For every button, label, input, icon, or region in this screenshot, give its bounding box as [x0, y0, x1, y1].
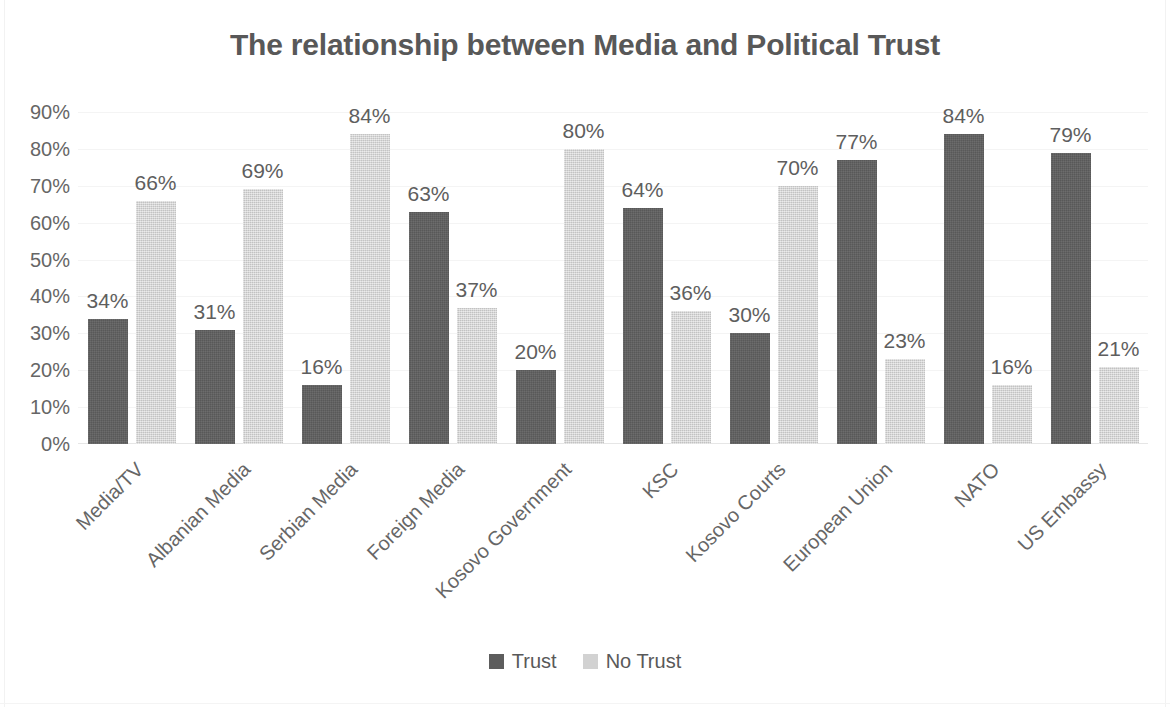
bar-wrapper: 30%: [730, 112, 770, 444]
bar-wrapper: 34%: [88, 112, 128, 444]
bar-wrapper: 84%: [350, 112, 390, 444]
x-axis-slot: European Union: [827, 444, 934, 604]
bar-group: 64%36%: [613, 112, 720, 444]
bar-wrapper: 63%: [409, 112, 449, 444]
y-axis: 90%80%70%60%50%40%30%20%10%0%: [10, 112, 70, 444]
bar-value-label: 69%: [241, 159, 283, 183]
bar-pair: 34%66%: [78, 112, 185, 444]
bar-no-trust[interactable]: [1099, 367, 1139, 444]
bar-no-trust[interactable]: [885, 359, 925, 444]
bar-value-label: 34%: [86, 289, 128, 313]
bar-trust[interactable]: [944, 134, 984, 444]
bar-value-label: 79%: [1049, 123, 1091, 147]
bar-value-label: 16%: [300, 355, 342, 379]
legend-item[interactable]: No Trust: [583, 650, 682, 673]
bar-trust[interactable]: [1051, 153, 1091, 444]
bar-no-trust[interactable]: [350, 134, 390, 444]
x-axis-slot: NATO: [934, 444, 1041, 604]
x-axis-category-label: NATO: [950, 458, 1004, 512]
bar-wrapper: 20%: [516, 112, 556, 444]
bar-group: 79%21%: [1041, 112, 1148, 444]
bar-no-trust[interactable]: [992, 385, 1032, 444]
x-axis-category-label: KSC: [637, 458, 682, 503]
bar-pair: 63%37%: [399, 112, 506, 444]
bar-no-trust[interactable]: [136, 201, 176, 444]
bar-value-label: 64%: [621, 178, 663, 202]
bar-trust[interactable]: [302, 385, 342, 444]
legend-item[interactable]: Trust: [489, 650, 557, 673]
bar-wrapper: 84%: [944, 112, 984, 444]
bar-wrapper: 79%: [1051, 112, 1091, 444]
bar-value-label: 20%: [514, 340, 556, 364]
bar-pair: 84%16%: [934, 112, 1041, 444]
bar-no-trust[interactable]: [671, 311, 711, 444]
bar-value-label: 84%: [942, 104, 984, 128]
bar-pair: 31%69%: [185, 112, 292, 444]
y-axis-tick-label: 20%: [30, 359, 70, 382]
bar-value-label: 84%: [348, 104, 390, 128]
frame-edge-left: [4, 0, 5, 707]
bar-group: 31%69%: [185, 112, 292, 444]
bar-wrapper: 80%: [564, 112, 604, 444]
bar-wrapper: 16%: [992, 112, 1032, 444]
bar-pair: 77%23%: [827, 112, 934, 444]
chart-container: The relationship between Media and Polit…: [0, 0, 1170, 707]
x-axis-slot: Serbian Media: [292, 444, 399, 604]
plot-area: 34%66%31%69%16%84%63%37%20%80%64%36%30%7…: [78, 112, 1148, 444]
bar-value-label: 30%: [728, 303, 770, 327]
bar-wrapper: 69%: [243, 112, 283, 444]
x-axis-slot: KSC: [613, 444, 720, 604]
bar-trust[interactable]: [88, 319, 128, 444]
y-axis-tick-label: 10%: [30, 396, 70, 419]
bar-wrapper: 70%: [778, 112, 818, 444]
bar-no-trust[interactable]: [457, 308, 497, 444]
bar-trust[interactable]: [195, 330, 235, 444]
bar-value-label: 80%: [562, 119, 604, 143]
bar-value-label: 66%: [134, 171, 176, 195]
bar-group: 77%23%: [827, 112, 934, 444]
y-axis-tick-label: 30%: [30, 322, 70, 345]
bar-value-label: 77%: [835, 130, 877, 154]
bar-pair: 79%21%: [1041, 112, 1148, 444]
y-axis-tick-label: 90%: [30, 101, 70, 124]
y-axis-tick-label: 80%: [30, 137, 70, 160]
bar-trust[interactable]: [837, 160, 877, 444]
bar-groups: 34%66%31%69%16%84%63%37%20%80%64%36%30%7…: [78, 112, 1148, 444]
y-axis-tick-label: 40%: [30, 285, 70, 308]
bar-trust[interactable]: [623, 208, 663, 444]
bar-value-label: 37%: [455, 278, 497, 302]
bar-group: 20%80%: [506, 112, 613, 444]
bar-trust[interactable]: [409, 212, 449, 444]
y-axis-tick-label: 60%: [30, 211, 70, 234]
bar-pair: 20%80%: [506, 112, 613, 444]
bar-value-label: 16%: [990, 355, 1032, 379]
x-axis-slot: Kosovo Courts: [720, 444, 827, 604]
bar-group: 16%84%: [292, 112, 399, 444]
x-axis-slot: US Embassy: [1041, 444, 1148, 604]
bar-no-trust[interactable]: [778, 186, 818, 444]
bar-group: 63%37%: [399, 112, 506, 444]
bar-value-label: 36%: [669, 281, 711, 305]
bar-wrapper: 16%: [302, 112, 342, 444]
bar-no-trust[interactable]: [243, 189, 283, 444]
legend-label: Trust: [512, 650, 557, 673]
frame-edge-right: [1165, 0, 1166, 707]
bar-group: 30%70%: [720, 112, 827, 444]
bar-wrapper: 36%: [671, 112, 711, 444]
bar-wrapper: 64%: [623, 112, 663, 444]
legend-swatch-icon: [489, 654, 504, 669]
bar-value-label: 31%: [193, 300, 235, 324]
x-axis-category-label: Media/TV: [71, 458, 148, 535]
bar-value-label: 21%: [1097, 337, 1139, 361]
bar-pair: 30%70%: [720, 112, 827, 444]
bar-group: 34%66%: [78, 112, 185, 444]
bar-no-trust[interactable]: [564, 149, 604, 444]
x-axis-slot: Kosovo Government: [506, 444, 613, 604]
bar-trust[interactable]: [516, 370, 556, 444]
y-axis-tick-label: 50%: [30, 248, 70, 271]
chart-legend: TrustNo Trust: [0, 650, 1170, 673]
bar-value-label: 63%: [407, 182, 449, 206]
x-axis: Media/TVAlbanian MediaSerbian MediaForei…: [78, 444, 1148, 604]
bar-value-label: 23%: [883, 329, 925, 353]
bar-trust[interactable]: [730, 333, 770, 444]
